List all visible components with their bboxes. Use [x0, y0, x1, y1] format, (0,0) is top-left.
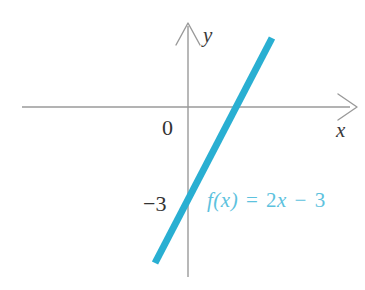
coordinate-plane — [0, 0, 365, 290]
function-line — [155, 38, 272, 263]
function-equation-label: f(x) = 2x − 3 — [207, 190, 326, 211]
equation-coefficient: 2 — [266, 188, 277, 212]
equation-variable: x — [277, 188, 287, 212]
graph-figure: y x 0 −3 f(x) = 2x − 3 — [0, 0, 365, 290]
y-axis-label: y — [203, 25, 212, 46]
equation-minus-sign: − — [293, 188, 309, 212]
equation-constant: 3 — [315, 188, 326, 212]
equation-lhs: f(x) — [207, 188, 238, 212]
origin-label: 0 — [162, 117, 173, 139]
equation-equals-sign: = — [244, 188, 260, 212]
x-axis-label: x — [336, 120, 345, 141]
y-intercept-label: −3 — [143, 193, 166, 215]
